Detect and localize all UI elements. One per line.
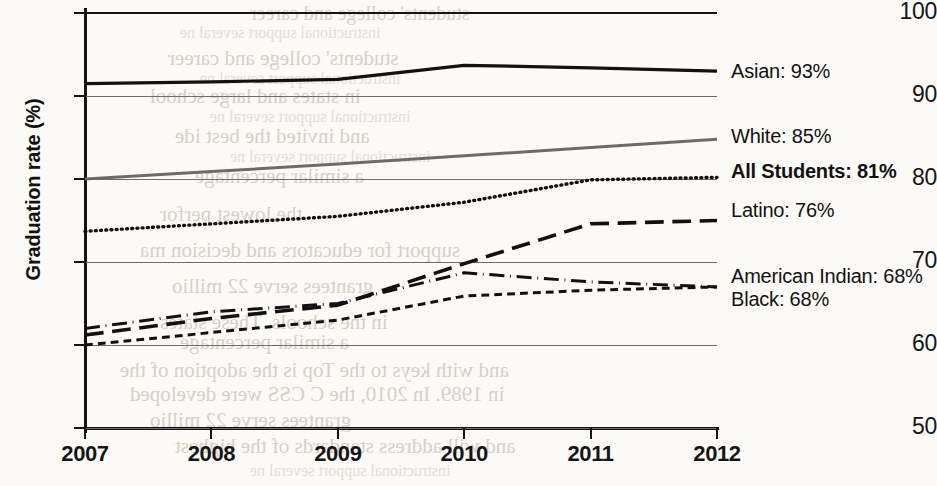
series-line-american-indian — [85, 273, 717, 329]
legend-label-latino: Latino: 76% — [731, 199, 834, 222]
series-line-white — [85, 139, 717, 179]
series-line-latino — [85, 221, 717, 336]
legend-label-black: Black: 68% — [731, 288, 829, 311]
legend-label-all-students: All Students: 81% — [731, 160, 897, 183]
legend-label-american-indian: American Indian: 68% — [731, 265, 923, 288]
graduation-rate-line-chart: Graduation rate (%) 1009080706050 200720… — [0, 0, 937, 486]
legend-label-white: White: 85% — [731, 125, 831, 148]
legend-label-asian: Asian: 93% — [731, 60, 830, 83]
series-line-asian — [85, 65, 717, 83]
